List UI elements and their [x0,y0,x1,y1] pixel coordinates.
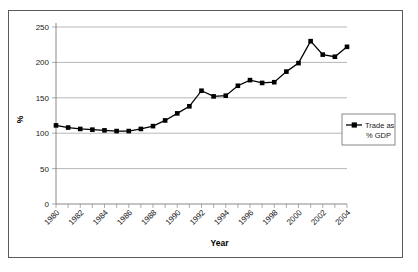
x-axis-title: Year [211,238,230,248]
x-tick-label: 1996 [236,208,255,227]
x-tick-label: 1988 [139,208,158,227]
y-tick-label: 200 [36,58,50,67]
data-point-marker [175,111,180,116]
x-tick-label: 1984 [91,208,110,227]
x-tick-marks [56,204,347,208]
y-tick-label: 0 [45,200,50,209]
data-point-marker [126,129,131,134]
data-point-marker [320,52,325,57]
y-tick-label: 50 [40,165,49,174]
y-axis [52,23,56,204]
data-point-marker [345,45,350,50]
data-point-marker [248,78,253,83]
data-point-marker [163,118,168,123]
x-tick-label: 1986 [115,208,134,227]
data-point-marker [66,125,71,130]
x-tick-label: 1990 [164,208,183,227]
x-tick-label: 2004 [333,208,352,227]
data-point-marker [308,39,313,44]
data-point-marker [236,83,241,88]
x-tick-labels: 1980198219841986198819901992199419961998… [42,208,352,227]
x-tick-label: 1980 [42,208,61,227]
legend-label-line1: Trade as [365,121,395,130]
data-point-marker [333,54,338,59]
data-point-marker [151,124,156,129]
data-point-marker [223,93,228,98]
series-line [56,41,347,131]
data-point-marker [114,129,119,134]
y-axis-title: % [15,115,25,123]
legend-swatch-marker [352,122,357,127]
x-tick-label: 1992 [188,208,207,227]
chart-frame: 050100150200250 198019821984198619881990… [8,10,403,258]
line-chart: 050100150200250 198019821984198619881990… [9,11,402,257]
y-tick-label: 250 [36,23,50,32]
data-point-marker [272,80,277,85]
data-point-marker [284,69,289,74]
data-point-marker [78,127,83,132]
data-point-marker [199,88,204,93]
data-point-marker [296,61,301,66]
y-tick-labels: 050100150200250 [36,23,50,209]
data-point-marker [187,104,192,109]
data-point-marker [139,127,144,132]
y-tick-label: 150 [36,94,50,103]
data-point-marker [260,81,265,86]
data-point-marker [54,123,59,128]
x-tick-label: 1994 [212,208,231,227]
y-tick-label: 100 [36,129,50,138]
data-point-marker [211,94,216,99]
legend-label-line2: % GDP [366,131,391,140]
x-tick-label: 2002 [309,208,328,227]
data-point-marker [90,127,95,132]
data-point-marker [102,128,107,133]
x-tick-label: 1998 [261,208,280,227]
x-tick-label: 2000 [285,208,304,227]
data-series-trade-as-pct-gdp [54,39,350,134]
gridlines [56,27,347,169]
legend: Trade as% GDP [342,114,395,145]
x-tick-label: 1982 [67,208,86,227]
